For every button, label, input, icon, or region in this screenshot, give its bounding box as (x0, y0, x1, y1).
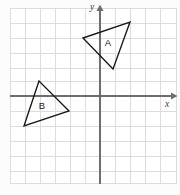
triangle-a-label: A (105, 37, 112, 48)
y-axis-label: y (89, 2, 95, 12)
coordinate-plane-figure: A B x y (0, 0, 180, 195)
x-axis-label: x (164, 99, 170, 109)
y-axis-arrow-icon (96, 5, 103, 11)
triangle-b-label: B (39, 100, 45, 111)
coordinate-grid-svg: A B x y (0, 0, 180, 195)
